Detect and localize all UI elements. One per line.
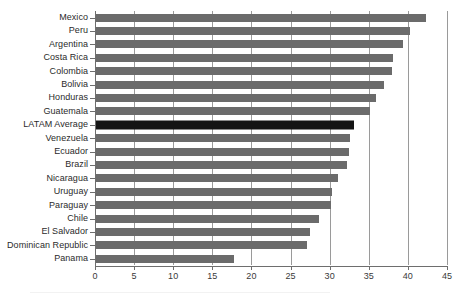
category-label-colombia: Colombia [0,65,88,78]
category-tick-mark [90,178,95,179]
bar-row: Mexico [0,11,465,24]
bar-row: LATAM Average [0,118,465,131]
category-tick-mark [90,245,95,246]
bar-row: Dominican Republic [0,239,465,252]
bar-chile [96,215,319,223]
bar-row: Paraguay [0,199,465,212]
x-tick-mark-30 [330,266,331,270]
category-tick-mark [90,111,95,112]
category-tick-mark [90,85,95,86]
x-axis-line [95,266,447,267]
horizontal-bar-chart: 051015202530354045 MexicoPeruArgentinaCo… [0,0,465,297]
bar-venezuela [96,134,350,142]
category-tick-mark [90,18,95,19]
category-label-latam-average: LATAM Average [0,118,88,131]
bar-row: El Salvador [0,225,465,238]
bottom-rule [30,292,330,293]
bar-row: Peru [0,24,465,37]
category-tick-mark [90,259,95,260]
bar-row: Honduras [0,91,465,104]
bar-row: Bolivia [0,78,465,91]
x-tick-label-45: 45 [432,271,462,281]
x-tick-mark-15 [212,266,213,270]
bar-argentina [96,40,403,48]
bar-row: Argentina [0,38,465,51]
category-tick-mark [90,58,95,59]
x-tick-label-15: 15 [197,271,227,281]
category-label-nicaragua: Nicaragua [0,172,88,185]
category-label-uruguay: Uruguay [0,185,88,198]
category-label-costa-rica: Costa Rica [0,51,88,64]
bar-peru [96,27,410,35]
x-tick-mark-20 [251,266,252,270]
bar-bolivia [96,81,384,89]
x-tick-label-0: 0 [80,271,110,281]
category-label-venezuela: Venezuela [0,132,88,145]
category-label-bolivia: Bolivia [0,78,88,91]
bar-row: Costa Rica [0,51,465,64]
category-label-brazil: Brazil [0,158,88,171]
bar-latam-average [96,120,354,129]
x-tick-label-35: 35 [354,271,384,281]
category-tick-mark [90,192,95,193]
bar-el-salvador [96,228,310,236]
category-tick-mark [90,165,95,166]
bar-row: Colombia [0,65,465,78]
category-label-guatemala: Guatemala [0,105,88,118]
category-tick-mark [90,138,95,139]
category-label-mexico: Mexico [0,11,88,24]
x-tick-label-30: 30 [315,271,345,281]
x-tick-mark-45 [447,266,448,270]
bar-brazil [96,161,347,169]
category-tick-mark [90,219,95,220]
bar-dominican-republic [96,241,307,249]
category-label-ecuador: Ecuador [0,145,88,158]
x-tick-label-40: 40 [393,271,423,281]
x-tick-label-5: 5 [119,271,149,281]
category-tick-mark [90,205,95,206]
category-label-dominican-republic: Dominican Republic [0,239,88,252]
x-tick-mark-0 [95,266,96,270]
bar-uruguay [96,188,332,196]
bar-row: Venezuela [0,132,465,145]
bar-row: Chile [0,212,465,225]
x-tick-mark-5 [134,266,135,270]
x-tick-mark-10 [173,266,174,270]
bar-row: Brazil [0,158,465,171]
bar-paraguay [96,201,331,209]
plot-area: 051015202530354045 MexicoPeruArgentinaCo… [0,0,465,297]
category-tick-mark [90,125,95,126]
category-label-paraguay: Paraguay [0,199,88,212]
category-tick-mark [90,31,95,32]
bar-row: Nicaragua [0,172,465,185]
bar-row: Uruguay [0,185,465,198]
bar-ecuador [96,148,349,156]
bar-row: Panama [0,252,465,265]
x-tick-label-10: 10 [158,271,188,281]
category-label-peru: Peru [0,24,88,37]
bar-panama [96,255,234,263]
bar-row: Guatemala [0,105,465,118]
category-tick-mark [90,71,95,72]
category-tick-mark [90,152,95,153]
bar-mexico [96,14,426,22]
bar-nicaragua [96,174,338,182]
category-label-argentina: Argentina [0,38,88,51]
category-tick-mark [90,98,95,99]
x-tick-mark-25 [291,266,292,270]
category-label-chile: Chile [0,212,88,225]
bar-row: Ecuador [0,145,465,158]
category-tick-mark [90,44,95,45]
bar-colombia [96,67,392,75]
category-label-honduras: Honduras [0,91,88,104]
x-tick-label-25: 25 [276,271,306,281]
bar-honduras [96,94,376,102]
bar-costa-rica [96,54,393,62]
x-tick-label-20: 20 [236,271,266,281]
x-tick-mark-40 [408,266,409,270]
category-label-panama: Panama [0,252,88,265]
category-label-el-salvador: El Salvador [0,225,88,238]
bar-guatemala [96,107,370,115]
category-tick-mark [90,232,95,233]
x-tick-mark-35 [369,266,370,270]
